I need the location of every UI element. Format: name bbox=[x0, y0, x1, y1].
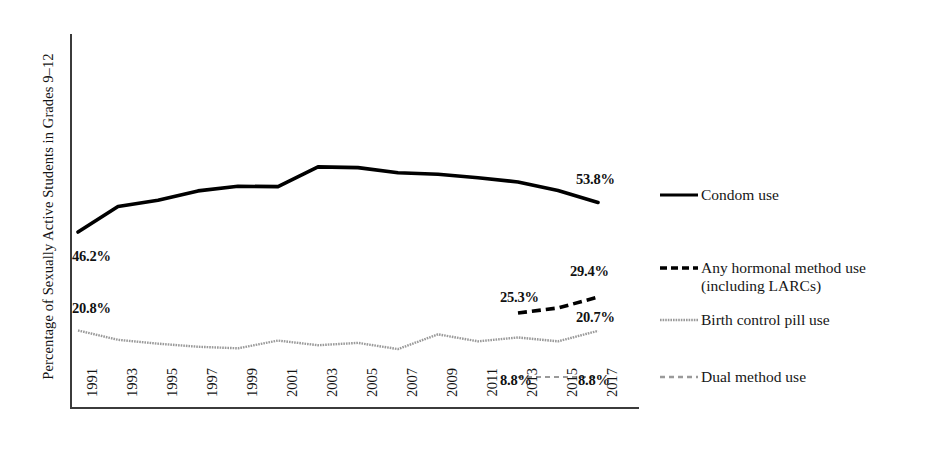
legend-item-dual-method-use[interactable]: Dual method use bbox=[660, 368, 806, 386]
legend-label: Condom use bbox=[701, 186, 779, 204]
legend-label: Birth control pill use bbox=[701, 311, 830, 329]
x-axis-tick-1999: 1999 bbox=[244, 368, 261, 414]
legend-swatch-solid-line-icon bbox=[660, 187, 698, 203]
legend-swatch-grey-dashed-line-icon bbox=[660, 369, 698, 385]
x-axis-tick-2003: 2003 bbox=[324, 368, 341, 414]
x-axis-tick-2005: 2005 bbox=[364, 368, 381, 414]
data-label-hormonal-2013: 25.3% bbox=[500, 289, 539, 306]
x-axis-tick-1995: 1995 bbox=[164, 368, 181, 414]
data-label-pill-2017: 20.7% bbox=[576, 309, 615, 326]
legend-item-birth-control-pill-use[interactable]: Birth control pill use bbox=[660, 311, 830, 329]
x-axis-tick-1993: 1993 bbox=[124, 368, 141, 414]
x-axis-tick-1997: 1997 bbox=[204, 368, 221, 414]
series-line-birth-control-pill-use bbox=[78, 330, 598, 349]
data-label-pill-1991: 20.8% bbox=[72, 300, 111, 317]
data-label-dual-2013: 8.8% bbox=[500, 372, 532, 389]
data-label-hormonal-2017: 29.4% bbox=[570, 263, 609, 280]
x-axis-tick-2009: 2009 bbox=[444, 368, 461, 414]
x-axis-tick-2011: 2011 bbox=[484, 368, 501, 414]
legend-label: Dual method use bbox=[701, 368, 806, 386]
legend-label: Any hormonal method use (including LARCs… bbox=[701, 259, 866, 295]
legend-swatch-fine-dotted-line-icon bbox=[660, 312, 698, 328]
chart-figure: Percentage of Sexually Active Students i… bbox=[0, 0, 930, 476]
legend-item-condom-use[interactable]: Condom use bbox=[660, 186, 779, 204]
x-axis-tick-1991: 1991 bbox=[84, 368, 101, 414]
series-line-condom-use bbox=[78, 167, 598, 232]
data-label-dual-2017: 8.8% bbox=[578, 372, 610, 389]
x-axis-tick-2001: 2001 bbox=[284, 368, 301, 414]
legend-swatch-dashed-line-icon bbox=[660, 260, 698, 276]
x-axis-tick-2007: 2007 bbox=[404, 368, 421, 414]
data-label-condom-1991: 46.2% bbox=[72, 248, 111, 265]
legend-item-any-hormonal-method-use[interactable]: Any hormonal method use (including LARCs… bbox=[660, 259, 866, 295]
data-label-condom-2017: 53.8% bbox=[576, 171, 615, 188]
